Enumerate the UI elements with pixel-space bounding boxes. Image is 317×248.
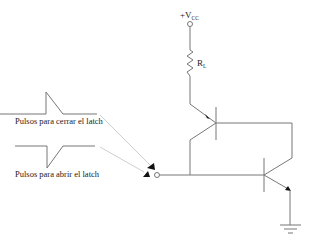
top-collector bbox=[190, 123, 216, 140]
rl-label: RL bbox=[197, 58, 207, 69]
open-latch-label: Pulsos para abrir el latch bbox=[15, 169, 100, 179]
circuit-diagram: +VCC RL Pulsos para cerrar el latch Puls… bbox=[0, 0, 317, 248]
ground-icon bbox=[280, 225, 301, 233]
negative-pulse-waveform bbox=[15, 146, 95, 168]
close-pulse-arrow-icon bbox=[147, 163, 155, 170]
vcc-label: +VCC bbox=[180, 10, 199, 21]
top-emitter bbox=[190, 104, 216, 123]
input-terminal bbox=[155, 173, 160, 178]
guide-line-close bbox=[100, 115, 150, 165]
close-latch-label: Pulsos para cerrar el latch bbox=[15, 116, 104, 126]
resistor-rl bbox=[187, 50, 193, 76]
bottom-emitter bbox=[264, 175, 290, 190]
bottom-transistor bbox=[264, 158, 292, 192]
top-transistor bbox=[190, 104, 216, 140]
guide-line-open bbox=[100, 147, 144, 172]
vcc-terminal bbox=[188, 22, 193, 27]
bottom-collector bbox=[264, 158, 292, 175]
positive-pulse-waveform bbox=[0, 92, 97, 114]
